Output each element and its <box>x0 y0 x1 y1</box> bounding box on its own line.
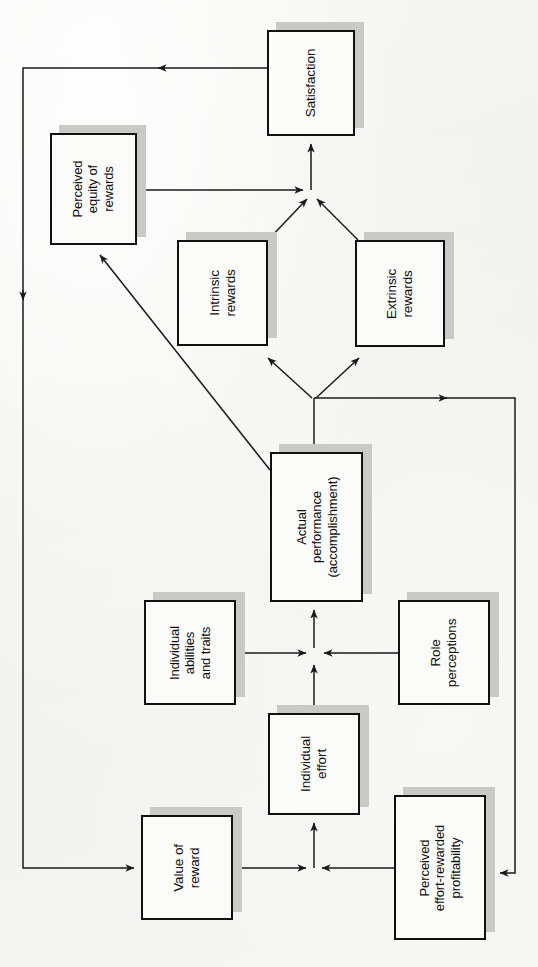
label-line-2: effort <box>314 736 330 792</box>
label-line-3: (accomplishment) <box>324 476 339 577</box>
node-actual-performance-label: Actual performance (accomplishment) <box>294 476 340 577</box>
node-individual-abilities[interactable]: Individual abilities and traits <box>144 600 236 705</box>
node-extrinsic-rewards-label: Extrinsic rewards <box>384 268 416 318</box>
figure-caption-sliver <box>523 663 537 963</box>
node-individual-effort[interactable]: Individual effort <box>268 713 360 815</box>
label-line-2: rewards <box>400 268 416 318</box>
node-perceived-equity-label: Perceived equity of rewards <box>71 161 117 218</box>
node-satisfaction-label: Satisfaction <box>303 49 319 118</box>
label-line-3: profitability <box>448 824 463 910</box>
label-line-3: and traits <box>198 626 213 680</box>
node-individual-effort-label: Individual effort <box>298 736 330 792</box>
label-line-2: perceptions <box>444 618 460 687</box>
node-intrinsic-rewards-label: Intrinsic rewards <box>207 269 239 316</box>
label-line-2: performance <box>309 476 324 577</box>
node-satisfaction[interactable]: Satisfaction <box>267 30 355 136</box>
node-actual-performance[interactable]: Actual performance (accomplishment) <box>270 452 363 602</box>
node-role-perceptions[interactable]: Role perceptions <box>398 600 490 705</box>
label-line-1: Perceived <box>417 824 432 910</box>
label-line-1: Actual <box>294 476 309 577</box>
node-extrinsic-rewards[interactable]: Extrinsic rewards <box>355 240 445 347</box>
label-line-2: effort-rewarded <box>432 824 447 910</box>
label-line-1: Role <box>428 618 444 687</box>
label-line-2: abilities <box>182 626 197 680</box>
node-intrinsic-rewards[interactable]: Intrinsic rewards <box>177 240 268 346</box>
label-line-1: Individual <box>298 736 314 792</box>
edge-actual-performance-to-extrinsic-rewards <box>316 358 359 398</box>
node-individual-abilities-label: Individual abilities and traits <box>167 626 213 680</box>
label-line-1: Value of <box>171 844 187 892</box>
figure-canvas: Satisfaction Perceived equity of rewards… <box>0 0 538 967</box>
node-perceived-effort-reward-label: Perceived effort-rewarded profitability <box>417 824 463 910</box>
label-line-1: Extrinsic <box>384 268 400 318</box>
label-line-2: reward <box>187 844 203 892</box>
label-line-2: equity of <box>86 161 101 218</box>
label-line-1: Perceived <box>71 161 86 218</box>
label-line-1: Individual <box>167 626 182 680</box>
label-line-2: rewards <box>222 269 238 316</box>
node-role-perceptions-label: Role perceptions <box>428 618 460 687</box>
edge-satisfaction-to-value-of-reward-tail <box>23 290 134 868</box>
node-perceived-effort-reward[interactable]: Perceived effort-rewarded profitability <box>394 795 486 940</box>
edge-actual-performance-to-intrinsic-rewards <box>268 358 312 398</box>
edge-extrinsic-rewards-to-satisfaction-junction <box>317 199 358 240</box>
node-perceived-equity[interactable]: Perceived equity of rewards <box>50 133 137 245</box>
label-line-1: Intrinsic <box>207 269 223 316</box>
node-value-of-reward[interactable]: Value of reward <box>141 815 233 920</box>
node-value-of-reward-label: Value of reward <box>171 844 203 892</box>
label-line-3: rewards <box>101 161 116 218</box>
